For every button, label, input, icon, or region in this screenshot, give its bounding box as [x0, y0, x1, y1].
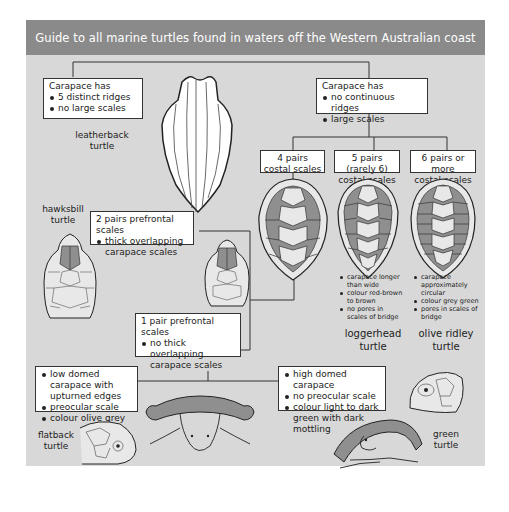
- one-prefrontal-head-illustration: [203, 238, 251, 308]
- loggerhead-note: colour red-brown to brown: [339, 289, 405, 305]
- two-prefrontal-heading: 2 pairs prefrontal scales: [96, 214, 188, 236]
- four-pairs-carapace-illustration: [255, 176, 331, 282]
- five-pairs-costal-box: 5 pairs (rarely 6) costal scales: [334, 150, 400, 173]
- olive-ridley-note: colour grey green: [413, 297, 483, 305]
- six-pairs-line1: 6 pairs or more: [413, 153, 473, 175]
- four-pairs-line1: 4 pairs: [263, 153, 322, 164]
- flatback-key-bullet: preocular scale: [41, 402, 132, 413]
- hard-shell-key-bullet: large scales: [322, 114, 422, 125]
- green-key-box: high domed carapace no preocular scale c…: [278, 366, 386, 411]
- leatherback-name: leatherback turtle: [62, 130, 142, 152]
- green-key-bullet: high domed carapace: [284, 369, 380, 391]
- leatherback-key-bullet: 5 distinct ridges: [49, 92, 137, 103]
- hawksbill-name: hawksbill turtle: [38, 204, 88, 226]
- hard-shell-key-bullet: no continuous ridges: [322, 92, 422, 114]
- green-name: green turtle: [426, 429, 466, 451]
- one-prefrontal-heading: 1 pair prefrontal scales: [141, 316, 235, 338]
- olive-ridley-name: olive ridley turtle: [410, 327, 482, 353]
- olive-ridley-notes: carapace approximately circular colour g…: [413, 273, 483, 321]
- leatherback-carapace-illustration: [150, 70, 240, 220]
- flatback-key-bullet: low domed carapace with upturned edges: [41, 369, 132, 402]
- one-prefrontal-bullet: no thick overlapping carapace scales: [141, 338, 235, 371]
- four-pairs-costal-box: 4 pairs costal scales: [260, 150, 325, 173]
- two-prefrontal-bullet: thick overlapping carapace scales: [96, 236, 188, 258]
- loggerhead-name-line1: loggerhead: [340, 327, 406, 340]
- hawksbill-head-illustration: [40, 232, 100, 320]
- flatback-body-illustration: [140, 392, 258, 462]
- flatback-head-illustration: [78, 418, 140, 466]
- loggerhead-notes: carapace longer than wide colour red-bro…: [339, 273, 405, 321]
- leatherback-key-heading: Carapace has: [49, 81, 137, 92]
- olive-ridley-name-line1: olive ridley: [410, 327, 482, 340]
- green-name-line2: turtle: [426, 440, 466, 451]
- flatback-name-line1: flatback: [34, 430, 78, 441]
- loggerhead-name: loggerhead turtle: [340, 327, 406, 353]
- olive-ridley-note: pores in scales of bridge: [413, 305, 483, 321]
- four-pairs-line2: costal scales: [263, 164, 322, 175]
- flatback-key-box: low domed carapace with upturned edges p…: [35, 366, 138, 412]
- loggerhead-note: no pores in scales of bridge: [339, 305, 405, 321]
- one-prefrontal-key-box: 1 pair prefrontal scales no thick overla…: [135, 313, 241, 357]
- green-key-bullet: no preocular scale: [284, 391, 380, 402]
- olive-ridley-carapace-illustration: [407, 176, 479, 280]
- green-head-illustration: [406, 368, 468, 416]
- leatherback-key-box: Carapace has 5 distinct ridges no large …: [43, 78, 143, 119]
- green-name-line1: green: [426, 429, 466, 440]
- hawksbill-name-line1: hawksbill: [38, 204, 88, 215]
- loggerhead-carapace-illustration: [334, 176, 402, 280]
- two-prefrontal-key-box: 2 pairs prefrontal scales thick overlapp…: [90, 211, 194, 245]
- hawksbill-name-line2: turtle: [38, 215, 88, 226]
- loggerhead-name-line2: turtle: [340, 340, 406, 353]
- flatback-name: flatback turtle: [34, 430, 78, 452]
- flatback-name-line2: turtle: [34, 441, 78, 452]
- five-pairs-line1: 5 pairs (rarely 6): [337, 153, 397, 175]
- six-pairs-costal-box: 6 pairs or more costal scales: [410, 150, 476, 173]
- hard-shell-key-heading: Carapace has: [322, 81, 422, 92]
- green-body-illustration: [330, 418, 430, 470]
- olive-ridley-note: carapace approximately circular: [413, 273, 483, 297]
- leatherback-key-bullet: no large scales: [49, 103, 137, 114]
- loggerhead-note: carapace longer than wide: [339, 273, 405, 289]
- olive-ridley-name-line2: turtle: [410, 340, 482, 353]
- hard-shell-key-box: Carapace has no continuous ridges large …: [316, 78, 428, 114]
